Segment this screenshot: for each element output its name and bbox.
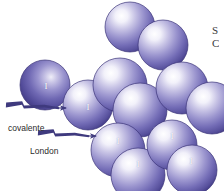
iodine-lattice-figure: IIIIII covalenteLondon SC — [0, 0, 224, 191]
cropped-side-text-line: C — [212, 37, 219, 50]
sphere-group — [20, 2, 224, 191]
sphere-mid-1 — [20, 60, 70, 110]
london-force-arrow-bolt — [38, 129, 89, 137]
cropped-side-text: SC — [212, 24, 219, 49]
covalent-bond-arrow-label: covalente — [8, 124, 44, 133]
sphere-bot-4 — [167, 145, 217, 191]
lattice-canvas — [0, 0, 224, 191]
cropped-side-text-line: S — [212, 24, 219, 37]
london-force-arrow-label: London — [30, 147, 58, 156]
